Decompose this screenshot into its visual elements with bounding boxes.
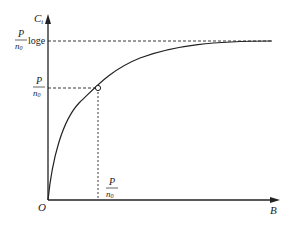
- svg-text:P: P: [35, 75, 42, 86]
- x-axis-label: B: [270, 204, 277, 216]
- x-axis-arrow-icon: [270, 197, 280, 203]
- x-mark-label: P n0: [106, 176, 118, 199]
- svg-text:n0: n0: [15, 41, 23, 51]
- svg-text:loge: loge: [28, 35, 46, 46]
- y-axis-label: Ct: [34, 12, 44, 26]
- capacity-curve: [48, 41, 272, 200]
- svg-text:n0: n0: [106, 189, 114, 199]
- svg-text:P: P: [108, 176, 115, 187]
- y-axis-arrow-icon: [45, 14, 51, 24]
- upper-level-label: P n0 loge: [15, 28, 46, 51]
- origin-label: O: [38, 201, 46, 213]
- svg-text:n0: n0: [33, 88, 41, 98]
- mid-level-label: P n0: [33, 75, 45, 98]
- svg-text:P: P: [17, 28, 24, 39]
- intersection-point: [95, 85, 100, 90]
- capacity-curve-diagram: Ct P n0 loge P n0 P n0 O B: [0, 0, 294, 228]
